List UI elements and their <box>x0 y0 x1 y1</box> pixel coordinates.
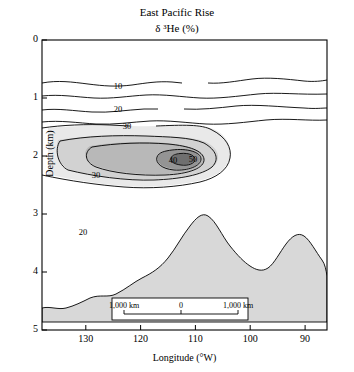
x-tick-110: 110 <box>180 334 210 344</box>
chart-subtitle: δ ³He (%) <box>0 22 354 34</box>
chart-title: East Pacific Rise <box>0 6 354 18</box>
figure-root: East Pacific Rise δ ³He (%) 0 1 2 3 4 5 … <box>0 0 354 372</box>
plot-area: 0 1 2 3 4 5 130 120 110 100 90 <box>42 40 327 330</box>
scalebar-label-center: 0 <box>179 301 183 310</box>
x-axis-label: Longitude (°W) <box>42 352 327 363</box>
scalebar-label-right: 1,000 km <box>223 301 254 310</box>
contour-label-40: 40 <box>169 155 178 165</box>
contour-label-50: 50 <box>189 154 198 164</box>
contour-line-10 <box>42 78 327 86</box>
y-tick-0: 0 <box>16 34 38 44</box>
contour-plot-svg: 1,000 km 0 1,000 km 10 20 30 40 50 30 20 <box>42 40 327 330</box>
y-tick-3: 3 <box>16 208 38 218</box>
scalebar-label-left: 1,000 km <box>109 301 140 310</box>
y-tick-2: 2 <box>16 150 38 160</box>
x-tick-130: 130 <box>71 334 101 344</box>
contour-line-20 <box>42 105 327 112</box>
contour-label-20: 20 <box>114 104 123 114</box>
y-axis-label: Depth (km) <box>44 109 55 199</box>
y-tick-5: 5 <box>16 324 38 334</box>
contour-label-10: 10 <box>114 81 123 91</box>
contour-label-30b: 30 <box>92 170 101 180</box>
contour-line-20b <box>42 119 327 124</box>
contour-label-30a: 30 <box>123 121 132 131</box>
x-tick-100: 100 <box>235 334 265 344</box>
contour-label-20b: 20 <box>79 227 88 237</box>
x-tick-120: 120 <box>126 334 156 344</box>
x-tick-90: 90 <box>290 334 320 344</box>
contour-line-10b <box>42 93 327 98</box>
y-tick-4: 4 <box>16 266 38 276</box>
y-tick-1: 1 <box>16 92 38 102</box>
